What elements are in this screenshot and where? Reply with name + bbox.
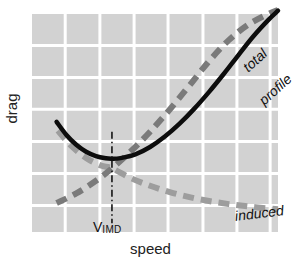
induced-drag-curve	[58, 131, 278, 210]
drag-vs-speed-figure: total profile induced VIMD drag speed	[0, 0, 301, 264]
profile-drag-curve	[57, 10, 278, 203]
vimd-annotation-label: VIMD	[93, 219, 122, 235]
plot-area: total profile induced VIMD	[32, 14, 278, 232]
x-axis-label: speed	[0, 240, 301, 257]
y-axis-label: drag	[3, 74, 20, 144]
vimd-symbol: V	[93, 219, 102, 235]
curves-layer	[32, 14, 278, 232]
vimd-subscript: IMD	[102, 224, 121, 235]
total-drag-curve	[57, 11, 278, 159]
